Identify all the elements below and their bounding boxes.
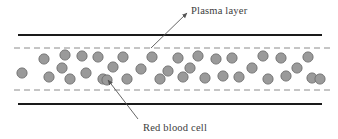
red-blood-cell	[178, 72, 188, 82]
red-blood-cell	[81, 68, 91, 78]
red-blood-cell	[118, 52, 128, 62]
red-blood-cell	[17, 68, 27, 78]
red-blood-cell	[136, 64, 146, 74]
red-blood-cell-label: Red blood cell	[143, 122, 207, 133]
red-blood-cell	[200, 73, 210, 83]
red-blood-cell	[281, 71, 291, 81]
red-blood-cell	[77, 51, 87, 61]
red-blood-cell	[193, 51, 203, 61]
red-blood-cell	[65, 74, 75, 84]
red-blood-cell	[60, 50, 70, 60]
red-blood-cell	[292, 63, 302, 73]
red-blood-cell	[303, 52, 313, 62]
red-blood-cell	[93, 52, 103, 62]
diagram-canvas	[0, 0, 338, 139]
red-blood-cell	[185, 63, 195, 73]
red-blood-cell	[163, 66, 173, 76]
red-blood-cell	[147, 52, 157, 62]
plasma-leader	[151, 13, 187, 48]
red-blood-cell	[263, 74, 273, 84]
red-blood-cell	[122, 74, 132, 84]
red-blood-cell	[247, 63, 257, 73]
red-blood-cell	[211, 54, 221, 64]
red-blood-cell	[44, 72, 54, 82]
red-blood-cell	[234, 72, 244, 82]
red-blood-cell	[173, 53, 183, 63]
red-blood-cell	[39, 54, 49, 64]
red-blood-cell	[315, 74, 325, 84]
red-blood-cell-group	[17, 50, 325, 85]
red-blood-cell	[276, 53, 286, 63]
red-blood-cell	[218, 71, 228, 81]
rbc-leader	[108, 80, 138, 119]
plasma-layer-label: Plasma layer	[191, 5, 247, 16]
blood-vessel-diagram: Plasma layer Red blood cell	[0, 0, 338, 139]
red-blood-cell	[155, 74, 165, 84]
red-blood-cell	[108, 62, 118, 72]
red-blood-cell	[227, 53, 237, 63]
red-blood-cell	[258, 51, 268, 61]
red-blood-cell	[57, 63, 67, 73]
